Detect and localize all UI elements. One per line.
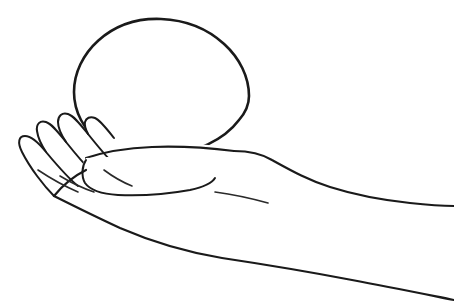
line-drawing [0,0,454,306]
image-canvas: Open hand holding a sphere Black line dr… [0,0,454,306]
